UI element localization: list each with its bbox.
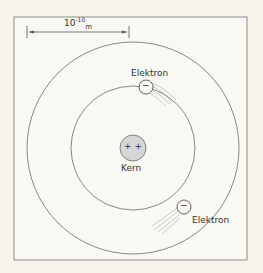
nucleus-charge: + + — [124, 141, 142, 151]
scale-label: 10-10m — [64, 16, 92, 31]
electron-label: Elektron — [192, 215, 229, 225]
nucleus-label: Kern — [121, 163, 141, 173]
electron-label: Elektron — [131, 68, 168, 78]
atom-diagram — [0, 0, 263, 273]
electron-charge: − — [142, 80, 150, 90]
electron-charge: − — [180, 200, 188, 210]
